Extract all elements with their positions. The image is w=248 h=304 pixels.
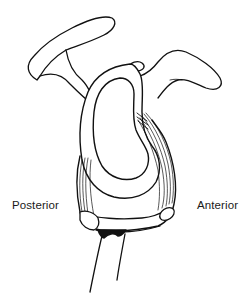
anterior-label: Anterior	[197, 199, 238, 211]
posterior-label: Posterior	[12, 199, 59, 211]
scapular-neck-outline	[90, 230, 126, 292]
shoulder-glenoid-diagram: Posterior Anterior	[0, 0, 248, 304]
posterior-ligament-insertion	[80, 211, 99, 230]
